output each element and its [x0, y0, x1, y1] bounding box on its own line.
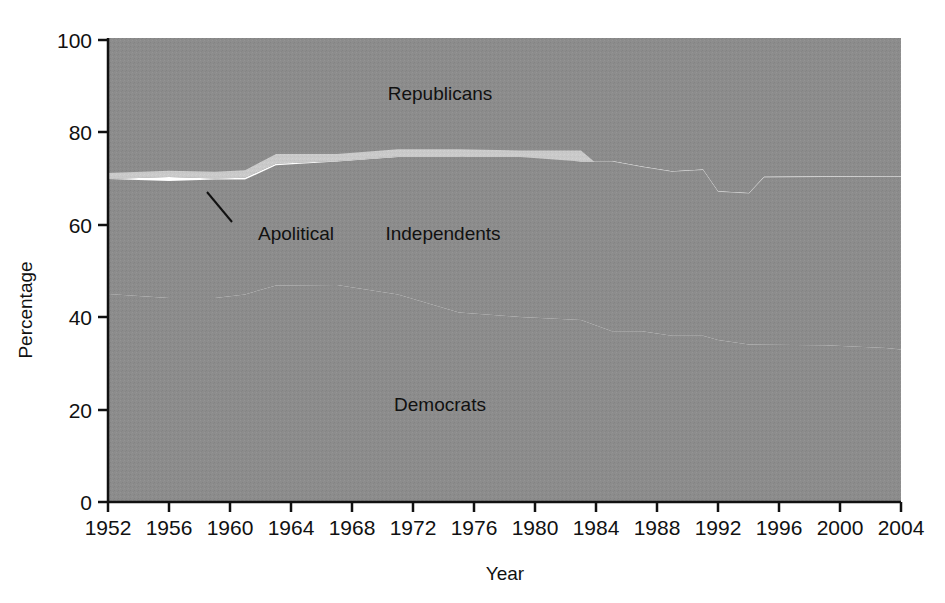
x-tick-label: 1956 [146, 516, 193, 539]
y-tick-label: 80 [69, 121, 92, 144]
band-label-republicans: Republicans [388, 83, 493, 104]
x-tick-label: 1960 [207, 516, 254, 539]
x-tick-label: 2000 [817, 516, 864, 539]
y-tick-label: 100 [57, 29, 92, 52]
y-tick-label: 60 [69, 214, 92, 237]
band-label-apolitical: Apolitical [258, 223, 334, 244]
party-identification-area-chart: 100 80 60 40 20 0 Percentage [0, 0, 945, 603]
chart-canvas: 100 80 60 40 20 0 Percentage [0, 0, 945, 603]
x-tick-label: 1968 [329, 516, 376, 539]
x-axis-title: Year [486, 563, 525, 584]
x-tick-label: 1976 [451, 516, 498, 539]
x-tick-label: 1964 [268, 516, 315, 539]
x-tick-label: 2004 [878, 516, 925, 539]
x-tick-label: 1972 [390, 516, 437, 539]
band-label-democrats: Democrats [394, 394, 486, 415]
x-tick-label: 1996 [756, 516, 803, 539]
x-tick-label: 1980 [512, 516, 559, 539]
x-tick-label: 1984 [573, 516, 620, 539]
y-tick-label: 0 [80, 491, 92, 514]
plot-area [108, 38, 901, 502]
band-label-independents: Independents [385, 223, 500, 244]
x-tick-label: 1992 [695, 516, 742, 539]
x-tick-label: 1952 [85, 516, 132, 539]
y-tick-label: 20 [69, 399, 92, 422]
y-tick-label: 40 [69, 306, 92, 329]
y-axis-title: Percentage [15, 261, 36, 358]
x-tick-label: 1988 [634, 516, 681, 539]
